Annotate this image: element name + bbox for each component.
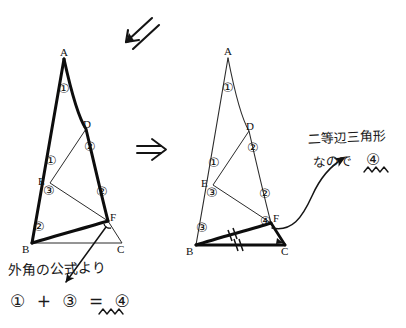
handwriting-canvas-page: A D E B F C ① ② ① ③ ② ② A D E B F C ① ② … xyxy=(0,0,406,328)
double-arrow-down-left-icon xyxy=(126,18,160,49)
left-angle-mark-D-2: ② xyxy=(84,140,96,153)
left-angle-mark-E-3: ③ xyxy=(43,184,55,197)
left-angle-mark-B-2: ② xyxy=(33,220,45,233)
left-vertex-label-A: A xyxy=(60,47,68,58)
left-vertex-label-F: F xyxy=(110,212,116,223)
right-angle-mark-D-2: ② xyxy=(247,141,259,154)
annotation-exterior-angle-formula: 外角の公式より xyxy=(8,261,106,278)
right-vertex-label-F: F xyxy=(273,213,279,224)
left-vertex-label-C: C xyxy=(117,244,124,255)
implies-arrow-icon xyxy=(137,139,166,160)
right-angle-mark-E-1: ① xyxy=(208,156,220,169)
annotation-right-result-circled-four: ④ xyxy=(366,152,380,168)
annotation-equation-result: ① + ③ = ④ xyxy=(10,293,133,310)
left-angle-mark-F-2: ② xyxy=(96,185,108,198)
right-vertex-label-A: A xyxy=(224,46,232,57)
right-angle-mark-E-3: ③ xyxy=(206,186,218,199)
left-vertex-label-B: B xyxy=(22,244,29,255)
left-angle-mark-A-1: ① xyxy=(58,82,70,95)
left-vertex-label-D: D xyxy=(83,119,91,130)
left-triangle-figure xyxy=(32,59,122,282)
right-vertex-label-B: B xyxy=(186,246,193,257)
annotation-isosceles-triangle: 二等辺三角形 xyxy=(308,129,387,146)
left-angle-mark-E-1: ① xyxy=(45,154,57,167)
annotation-therefore: なので xyxy=(313,154,352,168)
right-angle-mark-F-2: ② xyxy=(259,187,271,200)
right-vertex-label-C: C xyxy=(281,246,288,257)
right-angle-mark-A-1: ① xyxy=(222,81,234,94)
right-angle-mark-B-3: ③ xyxy=(196,221,208,234)
right-vertex-label-D: D xyxy=(246,121,254,132)
right-angle-mark-F-4: ④ xyxy=(260,215,271,227)
